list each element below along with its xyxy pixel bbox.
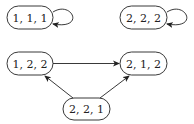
node-label: 2, 1, 2 <box>126 58 161 71</box>
node-label: 1, 1, 1 <box>13 12 48 25</box>
edge-self-loop-222 <box>167 9 187 25</box>
edge-221-to-122 <box>45 76 73 98</box>
node-label: 2, 2, 1 <box>69 103 104 116</box>
edge-self-loop-111 <box>53 9 73 25</box>
node-label: 2, 2, 2 <box>126 12 161 25</box>
node-221: 2, 2, 1 <box>63 98 110 120</box>
edge-221-to-212 <box>100 76 129 98</box>
node-111: 1, 1, 1 <box>7 6 53 29</box>
node-label: 1, 2, 2 <box>13 58 48 71</box>
node-212: 2, 1, 2 <box>120 52 167 75</box>
state-diagram: 1, 1, 1 2, 2, 2 1, 2, 2 2, 1, 2 2, 2, 1 <box>0 0 194 124</box>
node-122: 1, 2, 2 <box>7 52 53 75</box>
node-222: 2, 2, 2 <box>120 6 167 29</box>
